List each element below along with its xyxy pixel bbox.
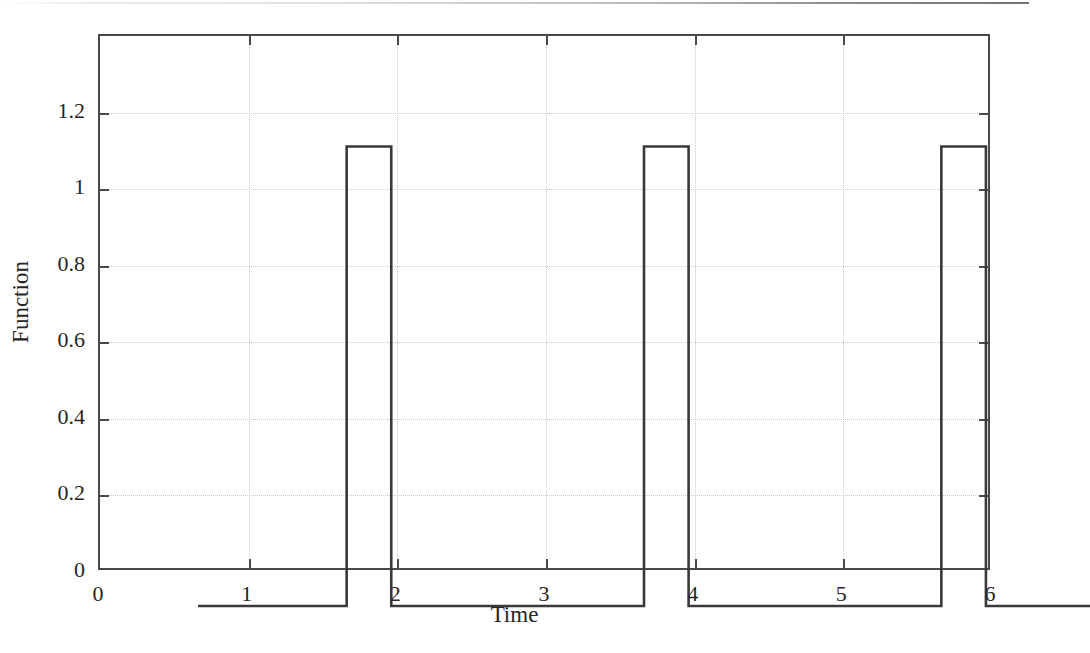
- y-tick-mark: [100, 266, 109, 268]
- y-tick-mark: [100, 419, 109, 421]
- y-tick-mark: [100, 495, 109, 497]
- x-tick-mark: [695, 36, 697, 45]
- y-tick-label: 0.2: [58, 482, 86, 504]
- x-tick-mark: [249, 36, 251, 45]
- y-tick-label: 0: [74, 559, 85, 581]
- y-tick-mark: [100, 189, 109, 191]
- y-tick-label: 1.2: [58, 100, 86, 122]
- y-tick-mark: [100, 113, 109, 115]
- y-tick-label: 1: [74, 176, 85, 198]
- y-tick-label: 0.8: [58, 253, 86, 275]
- x-tick-mark: [546, 36, 548, 45]
- data-series-function: [198, 70, 1090, 606]
- x-axis-label: Time: [0, 602, 1029, 628]
- plot-area: [98, 34, 990, 570]
- x-tick-mark: [843, 36, 845, 45]
- series-polyline: [198, 147, 1090, 606]
- y-tick-mark: [100, 342, 109, 344]
- x-tick-mark: [397, 36, 399, 45]
- y-axis-label: Function: [8, 261, 34, 343]
- y-tick-label: 0.4: [58, 406, 86, 428]
- y-tick-label: 0.6: [58, 329, 86, 351]
